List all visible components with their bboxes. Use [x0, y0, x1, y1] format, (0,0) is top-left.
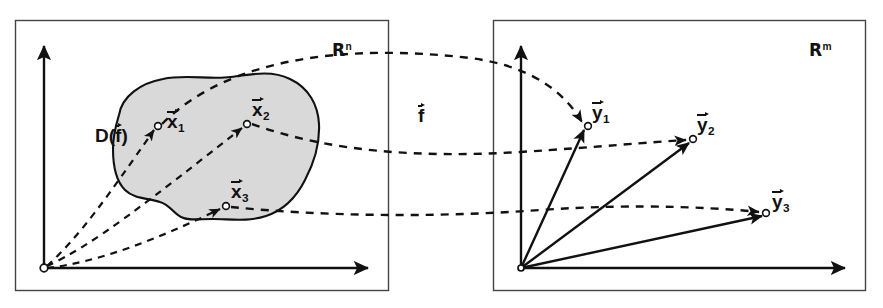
point-label-y1-index: 1	[603, 112, 610, 125]
mapping-function-label: f	[418, 103, 424, 125]
point-label-y2-symbol: y	[697, 115, 708, 134]
domain-label-close: )	[121, 125, 127, 146]
domain-label: D(f)	[95, 123, 128, 145]
space-label-rm-base: R	[809, 40, 822, 60]
point-label-x3-index: 3	[242, 191, 249, 204]
domain-blob	[113, 73, 319, 219]
mapping-curve-3	[231, 206, 759, 215]
point-label-y1: y1	[592, 100, 610, 122]
point-label-x3-vector: x	[231, 179, 242, 201]
point-label-y2-index: 2	[708, 124, 715, 137]
point-marker-y2	[690, 136, 697, 143]
point-label-x2: x2	[252, 97, 270, 119]
diagram-svg	[0, 0, 883, 308]
point-label-x2-symbol: x	[252, 100, 263, 119]
right-panel-frame	[494, 21, 866, 291]
point-marker-y3	[763, 210, 770, 217]
point-label-y3: y3	[772, 189, 790, 211]
point-label-y3-symbol: y	[772, 192, 783, 211]
point-label-x2-vector: x	[252, 97, 263, 119]
point-label-y2: y2	[697, 112, 715, 134]
space-label-rm-exponent: m	[823, 41, 832, 52]
point-marker-x3	[223, 203, 230, 210]
right-origin-marker	[518, 265, 524, 271]
space-label-rn-exponent: n	[346, 41, 352, 52]
diagram-canvas: Rn Rm D(f) f x1 x2 x3 y1 y2 y3	[0, 0, 883, 308]
point-marker-x1	[155, 123, 162, 130]
space-label-rn-base: R	[332, 40, 345, 60]
mapping-function-symbol: f	[418, 106, 424, 125]
mapping-function-vector: f	[418, 103, 424, 125]
point-label-x3: x3	[231, 179, 249, 201]
point-label-x3-symbol: x	[231, 182, 242, 201]
domain-label-open: D(	[95, 125, 115, 146]
left-origin-marker	[40, 264, 48, 272]
domain-label-symbol: f	[115, 126, 121, 145]
domain-label-vector-f: f	[115, 123, 121, 145]
space-label-rn: Rn	[332, 42, 352, 59]
point-label-x1-vector: x	[167, 109, 178, 131]
space-label-rm: Rm	[809, 42, 832, 59]
point-marker-x2	[244, 121, 251, 128]
point-label-y3-vector: y	[772, 189, 783, 211]
point-label-x1: x1	[167, 109, 185, 131]
point-label-y3-index: 3	[783, 201, 790, 214]
point-label-y1-symbol: y	[592, 103, 603, 122]
point-label-x2-index: 2	[263, 109, 270, 122]
point-marker-y1	[585, 123, 592, 130]
point-label-x1-symbol: x	[167, 112, 178, 131]
point-label-y2-vector: y	[697, 112, 708, 134]
point-label-y1-vector: y	[592, 100, 603, 122]
point-label-x1-index: 1	[178, 121, 185, 134]
